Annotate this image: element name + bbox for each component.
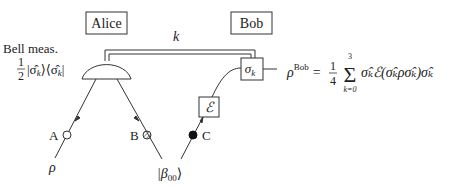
channel-e-gate: ℰ [199, 97, 219, 117]
svg-text:Σ: Σ [344, 62, 357, 87]
svg-text:1: 1 [330, 59, 336, 73]
classical-channel-label: k [173, 29, 180, 44]
svg-text:4: 4 [330, 74, 336, 88]
svg-text:1: 1 [18, 55, 24, 69]
svg-text:2: 2 [18, 69, 24, 83]
bob-label: Bob [240, 16, 263, 31]
qubit-a-label: A [49, 128, 59, 143]
svg-text:|σ̂k⟩⟨σ̂k|: |σ̂k⟩⟨σ̂k| [27, 62, 64, 78]
qubit-b-hatched-circle-icon [143, 131, 151, 139]
teleportation-diagram: Alice Bob k Bell meas. 1 2 |σ̂k⟩⟨σ̂k| A … [0, 0, 457, 189]
bell-measurement-meter-icon [82, 65, 131, 79]
alice-label: Alice [91, 16, 121, 31]
classical-double-wire [105, 50, 255, 61]
bell-measurement-projector: 1 2 |σ̂k⟩⟨σ̂k| [17, 55, 64, 83]
svg-text:ρBob=: ρBob= [286, 62, 321, 80]
output-formula: ρBob= 1 4 3 Σ k=0 σ̂ₖℰ(σ̂ₖρσ̂ₖ)σ̂ₖ [286, 52, 434, 94]
svg-text:k=0: k=0 [344, 85, 357, 94]
svg-text:σ̂ₖℰ(σ̂ₖρσ̂ₖ)σ̂ₖ: σ̂ₖℰ(σ̂ₖρσ̂ₖ)σ̂ₖ [361, 65, 434, 81]
qubit-a-open-circle-icon [63, 131, 71, 139]
qubit-b-label: B [130, 128, 139, 143]
input-rho-label: ρ [48, 160, 56, 175]
qubit-c-label: C [202, 128, 211, 143]
wire-a [55, 79, 96, 158]
input-bell-state-label: |β00⟩ [157, 166, 182, 183]
qubit-c-filled-circle-icon [189, 131, 197, 139]
bell-measurement-title: Bell meas. [3, 41, 58, 56]
bob-label-box: Bob [231, 12, 272, 34]
sigma-k-correction-gate: σk [241, 58, 263, 80]
svg-text:3: 3 [348, 52, 352, 61]
wire-b [117, 79, 162, 159]
alice-label-box: Alice [86, 12, 127, 34]
